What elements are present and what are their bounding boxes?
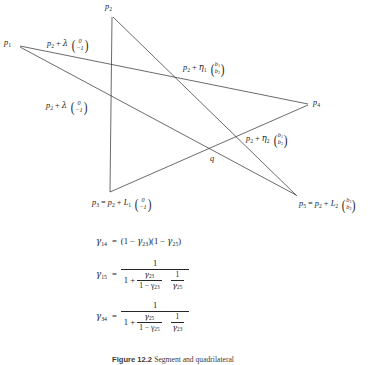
vector-column: b1 b2: [278, 132, 283, 146]
eq2-inner-den-text: 1 − γ: [139, 281, 154, 290]
eq1-rhs: (1 − γ23)(1 − γ25): [121, 236, 181, 247]
eq3-denominator: 1 + γ25 1 − γ25 1 γ23: [121, 311, 189, 333]
eq1-equals: =: [112, 236, 117, 246]
eq2-fraction: 1 1 + γ23 1 − γ23 1 γ25: [121, 258, 189, 291]
vector-close-paren: ): [147, 198, 151, 209]
eq1-gamma-sub: 14: [101, 241, 107, 247]
p3-vector: ( 0 −1 ): [134, 197, 152, 210]
label-point-p5-full: p5 = p2 + L2 ( b1 b2 ): [299, 197, 357, 211]
eq3-tail-den: γ23: [171, 322, 185, 333]
vector-column: 0 −1: [75, 100, 82, 113]
p3-equals: =: [101, 198, 106, 207]
vector-close-paren: ): [83, 101, 87, 112]
eq2-inner-den: 1 − γ23: [137, 280, 161, 291]
label-p1-sub: 1: [8, 42, 11, 48]
vector-b1-sub: 1: [218, 63, 220, 68]
eq1-one-minus-1: 1 −: [124, 236, 135, 246]
eq3-inner-den-text: 1 − γ: [139, 323, 154, 332]
eq1-close-2: ): [178, 236, 181, 246]
eq3-inner-den-sub: 25: [154, 327, 159, 333]
equation-gamma-14: γ14 = (1 − γ23)(1 − γ25): [96, 236, 181, 247]
eq2-inner-num: γ23: [142, 270, 156, 280]
lambda-lower-p-sub: 2: [50, 105, 53, 111]
label-point-p1: p1: [4, 39, 11, 48]
caption-prefix: Figure 12.2: [112, 355, 152, 364]
eq2-one-plus: 1 +: [124, 275, 135, 285]
eq2-inner-num-sub: 23: [149, 273, 154, 279]
eq3-numerator: 1: [151, 300, 159, 311]
eq3-tail-fraction: 1 γ23: [171, 312, 185, 332]
eta1-sub: 1: [204, 67, 207, 73]
label-lambda-upper: p2 + λ ( 0 −1 ): [47, 38, 89, 51]
edge-p2-p5: [113, 17, 297, 196]
eta1-vector: ( b1 b2 ): [210, 61, 225, 75]
eta2-plus: +: [255, 134, 260, 143]
lambda-upper-plus: +: [56, 39, 61, 48]
p5-vector: ( b1 b2 ): [341, 197, 356, 211]
vector-bottom: −1: [139, 204, 146, 211]
lambda-upper-sym: λ: [63, 38, 68, 48]
label-point-p4: p4: [313, 99, 320, 108]
eq2-inner-den-sub: 23: [154, 285, 159, 291]
eq2-tail-num: 1: [173, 270, 181, 280]
p3-sub: 3: [96, 202, 99, 208]
figure-caption: Figure 12.2 Segment and quadrilateral: [112, 355, 234, 365]
label-point-p3-full: p3 = p2 + L1 ( 0 −1 ): [92, 197, 152, 210]
vector-b2-sub: 2: [281, 141, 283, 146]
eq3-inner-num-sub: 25: [149, 315, 154, 321]
eq2-tail-fraction: 1 γ25: [171, 270, 185, 290]
caption-rest: Segment and quadrilateral: [154, 355, 234, 364]
vector-open-paren: (: [72, 39, 76, 50]
vector-close-paren: ): [84, 39, 88, 50]
eq3-inner-fraction: γ25 1 − γ25: [137, 312, 161, 333]
vector-open-paren: (: [273, 134, 277, 145]
eta2-p-sub: 2: [250, 138, 253, 144]
label-p2-sub: 2: [109, 6, 112, 12]
eq3-fraction: 1 1 + γ25 1 − γ25 1 γ23: [121, 300, 189, 333]
eta1-plus: +: [192, 63, 197, 72]
vector-bottom: b2: [346, 204, 351, 211]
eq1-one-minus-2: 1 −: [154, 236, 165, 246]
p5-sub: 5: [303, 203, 306, 209]
eq3-one-plus: 1 +: [124, 317, 135, 327]
vector-bottom: −1: [75, 107, 82, 114]
lambda-lower-vector: ( 0 −1 ): [70, 100, 88, 113]
eta1-p-sub: 2: [187, 67, 190, 73]
edge-p2-p3: [110, 17, 112, 192]
label-point-p2: p2: [105, 3, 112, 12]
figure-container: p2 p1 p2 + λ ( 0 −1 ) p2 + λ ( 0 −1 ): [0, 0, 389, 365]
lambda-lower-plus: +: [55, 101, 60, 110]
edge-p1-p5: [20, 47, 296, 195]
eq2-den-inner: 1 + γ23 1 − γ23 1 γ25: [124, 270, 186, 291]
vector-open-paren: (: [135, 198, 139, 209]
label-lambda-lower: p2 + λ ( 0 −1 ): [46, 100, 88, 113]
vector-bottom: b2: [215, 68, 220, 75]
vector-bottom: b2: [278, 139, 283, 146]
vector-open-paren: (: [71, 101, 75, 112]
lambda-upper-p-sub: 2: [51, 43, 54, 49]
label-eta1: p2 + η1 ( b1 b2 ): [183, 61, 225, 75]
edge-p3-p4: [110, 105, 308, 192]
vector-column: 0 −1: [76, 38, 83, 51]
vector-b1-sub: 1: [281, 134, 283, 139]
eq3-lhs: γ34: [96, 311, 107, 322]
eq2-inner-fraction: γ23 1 − γ23: [137, 270, 161, 291]
eq2-numerator: 1: [151, 258, 159, 269]
p3-L-sub: 1: [128, 202, 131, 208]
p5-rhs-p-sub: 2: [319, 203, 322, 209]
p3-plus: +: [117, 198, 122, 207]
vector-close-paren: ): [284, 134, 288, 145]
vector-close-paren: ): [352, 199, 356, 210]
lambda-upper-vector: ( 0 −1 ): [71, 38, 89, 51]
equations-block: γ14 = (1 − γ23)(1 − γ25) γ15 = 1 1 +: [0, 232, 389, 350]
edge-p1-p4: [20, 46, 308, 104]
equation-gamma-34: γ34 = 1 1 + γ25 1 − γ25 1 γ23: [96, 300, 189, 333]
vector-column: 0 −1: [139, 197, 146, 210]
p5-equals: =: [308, 199, 313, 208]
eq3-den-inner: 1 + γ25 1 − γ25 1 γ23: [124, 312, 186, 333]
eq3-gamma-sub: 34: [101, 316, 107, 322]
eq3-inner-num: γ25: [142, 312, 156, 322]
eq2-equals: =: [112, 269, 117, 279]
p5-L-sub: 2: [335, 203, 338, 209]
eq2-tail-den: γ25: [171, 280, 185, 291]
